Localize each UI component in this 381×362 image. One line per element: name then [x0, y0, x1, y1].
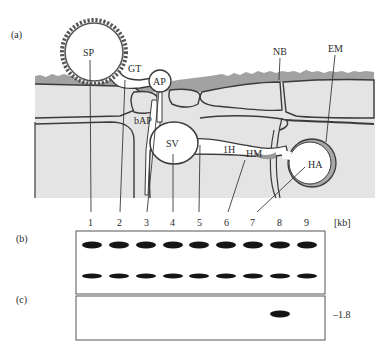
panel-label-a: (a) — [11, 29, 22, 41]
band — [297, 274, 317, 279]
band — [109, 274, 129, 279]
band — [270, 242, 290, 249]
label-appressorium: AP — [153, 76, 166, 87]
band — [82, 274, 102, 279]
lane-number: 4 — [170, 217, 175, 228]
band — [297, 242, 317, 249]
figure: SP GT AP bAP SV 1H HM HA NB EM (a) 1 2 3… — [0, 0, 381, 362]
label-bAP: bAP — [134, 115, 152, 126]
band — [82, 242, 102, 249]
band — [189, 274, 209, 279]
label-haustorial-mother-cell: HM — [246, 148, 262, 159]
label-haustorium: HA — [308, 159, 323, 170]
label-NB: NB — [273, 46, 287, 57]
size-marker-label: –1.8 — [332, 309, 351, 320]
band-lane-8 — [270, 311, 290, 318]
unit-label: [kb] — [334, 217, 351, 228]
band — [163, 242, 183, 249]
band — [136, 274, 156, 279]
panel-label-b: (b) — [16, 233, 28, 245]
plant-tissue-diagram: SP GT AP bAP SV 1H HM HA NB EM (a) — [11, 20, 375, 212]
band — [216, 274, 236, 279]
epidermal-cell-5 — [283, 80, 374, 118]
lane-number: 5 — [197, 217, 202, 228]
band — [243, 274, 263, 279]
band — [189, 242, 209, 249]
lane-numbers: 1 2 3 4 5 6 7 8 9 [kb] — [88, 217, 351, 228]
band — [270, 274, 290, 279]
label-germ-tube: GT — [128, 63, 141, 74]
label-infection-hypha: 1H — [223, 144, 235, 155]
lane-number: 7 — [250, 217, 255, 228]
band — [136, 242, 156, 249]
blot-b-membrane — [76, 231, 325, 294]
lane-number: 3 — [144, 217, 149, 228]
band — [163, 274, 183, 279]
label-EM: EM — [328, 43, 343, 54]
lane-number: 8 — [277, 217, 282, 228]
label-spore: SP — [83, 47, 95, 58]
band — [216, 242, 236, 249]
label-substomatal-vesicle: SV — [166, 138, 180, 149]
lane-number: 9 — [304, 217, 309, 228]
lane-number: 1 — [88, 217, 93, 228]
band — [109, 242, 129, 249]
band — [243, 242, 263, 249]
epidermal-cell-3 — [169, 89, 200, 107]
panel-label-c: (c) — [16, 294, 27, 306]
lane-number: 2 — [117, 217, 122, 228]
lane-number: 6 — [224, 217, 229, 228]
blot-c-membrane — [76, 296, 325, 340]
